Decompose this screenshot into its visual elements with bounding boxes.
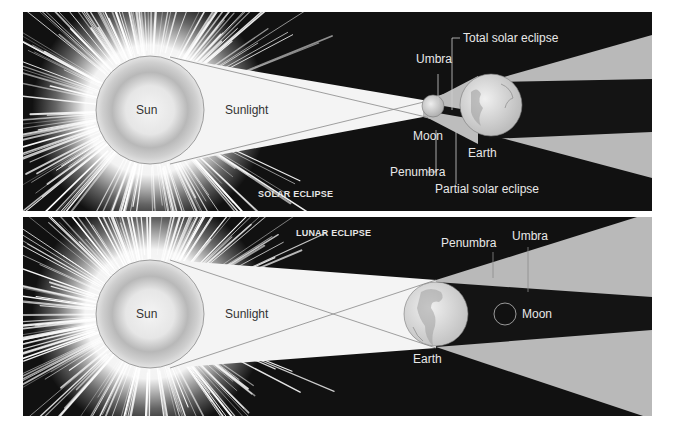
penumbra-label: Penumbra — [441, 237, 496, 249]
moon-label: Moon — [413, 130, 443, 142]
moon-label: Moon — [522, 308, 552, 320]
lunar-eclipse-title: LUNAR ECLIPSE — [296, 228, 371, 238]
solar-eclipse-panel: Sun Sunlight Moon Earth Umbra Penumbra T… — [23, 12, 652, 211]
penumbra-label: Penumbra — [390, 166, 445, 178]
moon — [494, 303, 516, 325]
lunar-eclipse-panel: Sun Sunlight Earth Moon Penumbra Umbra L… — [23, 217, 652, 416]
umbra-label: Umbra — [416, 53, 452, 65]
earth-label: Earth — [468, 147, 497, 159]
total-solar-eclipse-label: Total solar eclipse — [463, 32, 558, 44]
partial-solar-eclipse-label: Partial solar eclipse — [435, 183, 539, 195]
sunlight-beam — [170, 260, 436, 368]
sunlight-beam — [170, 57, 423, 164]
sunlight-label: Sunlight — [225, 104, 268, 116]
lunar-eclipse-illustration — [23, 217, 652, 416]
sun-label: Sun — [136, 104, 157, 116]
moon — [422, 95, 444, 117]
solar-eclipse-title: SOLAR ECLIPSE — [258, 189, 333, 199]
earth-label: Earth — [413, 353, 442, 365]
sunlight-label: Sunlight — [225, 308, 268, 320]
earth — [460, 74, 522, 136]
umbra-label: Umbra — [512, 230, 548, 242]
sun-label: Sun — [136, 308, 157, 320]
